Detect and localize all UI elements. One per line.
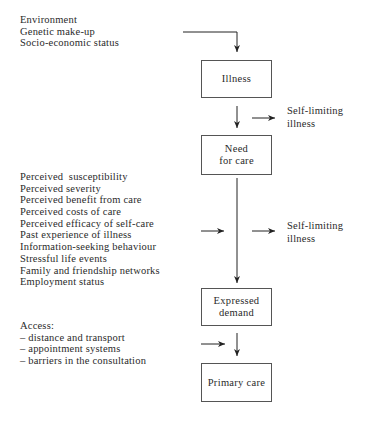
factor-item: Past experience of illness xyxy=(20,229,160,241)
need-for-care-box: Need for care xyxy=(201,135,272,175)
illness-line: illness xyxy=(287,232,343,245)
access-title: Access: xyxy=(20,320,146,332)
illness-box: Illness xyxy=(201,60,272,98)
factor-item: Perceived costs of care xyxy=(20,206,160,218)
self-limiting-line: Self-limiting xyxy=(287,219,343,232)
determinants-list: Environment Genetic make-up Socio-econom… xyxy=(20,14,119,49)
primary-care-box: Primary care xyxy=(201,363,272,402)
access-item: – appointment systems xyxy=(20,343,146,355)
determinant-item: Socio-economic status xyxy=(20,37,119,49)
determinant-item: Environment xyxy=(20,14,119,26)
factor-item: Employment status xyxy=(20,276,160,288)
illness-label: Illness xyxy=(222,73,252,85)
illness-line: illness xyxy=(287,117,343,130)
access-list: Access: – distance and transport – appoi… xyxy=(20,320,146,367)
demand-label-line-1: Expressed xyxy=(214,295,260,307)
primary-care-label: Primary care xyxy=(208,377,266,389)
self-limiting-line: Self-limiting xyxy=(287,104,343,117)
factor-item: Perceived benefit from care xyxy=(20,194,160,206)
factor-item: Information-seeking behaviour xyxy=(20,241,160,253)
access-item: – distance and transport xyxy=(20,332,146,344)
factor-item: Stressful life events xyxy=(20,253,160,265)
expressed-demand-box: Expressed demand xyxy=(201,288,272,326)
need-label-line-2: for care xyxy=(219,155,254,167)
access-item: – barriers in the consultation xyxy=(20,355,146,367)
arrow-determinants-to-illness xyxy=(183,32,237,52)
self-limiting-label-1: Self-limiting illness xyxy=(287,104,343,130)
factor-item: Perceived efficacy of self-care xyxy=(20,218,160,230)
factor-item: Perceived susceptibility xyxy=(20,171,160,183)
factor-item: Perceived severity xyxy=(20,183,160,195)
determinant-item: Genetic make-up xyxy=(20,26,119,38)
factors-list: Perceived susceptibility Perceived sever… xyxy=(20,171,160,288)
factor-item: Family and friendship networks xyxy=(20,265,160,277)
demand-label-line-2: demand xyxy=(214,307,260,319)
need-label-line-1: Need xyxy=(219,143,254,155)
self-limiting-label-2: Self-limiting illness xyxy=(287,219,343,245)
